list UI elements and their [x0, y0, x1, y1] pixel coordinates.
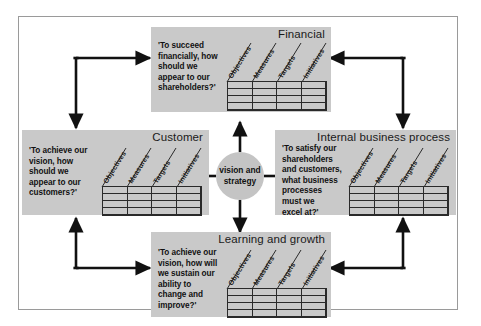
grid-cell: [253, 89, 278, 96]
grid-cell: [253, 289, 278, 296]
scorecard-grid-customer: Objectives Measures Targets Initiatives: [98, 142, 202, 214]
grid-cell: [103, 194, 128, 201]
grid-cell: [253, 103, 278, 110]
vision-and-strategy-hub: vision and strategy: [216, 152, 264, 200]
grid-cells-internal-business-process: [349, 186, 449, 216]
grid-cell: [350, 208, 375, 215]
grid-cell: [103, 187, 128, 194]
grid-cells-financial: [227, 81, 327, 111]
scorecard-grid-internal-business-process: Objectives Measures Targets Initiatives: [345, 142, 449, 214]
grid-cell: [253, 303, 278, 310]
panel-financial-quote: 'To succeed financially, how should we a…: [158, 41, 224, 94]
panel-customer-quote: 'To achieve our vision, how should we ap…: [29, 146, 97, 199]
grid-cell: [375, 201, 400, 208]
grid-cell: [375, 187, 400, 194]
grid-cells-customer: [102, 186, 202, 216]
grid-cell: [228, 289, 253, 296]
grid-cell: [177, 194, 202, 201]
grid-cell: [228, 103, 253, 110]
header-initiatives: Initiatives: [302, 47, 326, 79]
grid-cell: [128, 208, 153, 215]
grid-cell: [277, 103, 302, 110]
grid-cell: [277, 296, 302, 303]
grid-cell: [302, 310, 327, 317]
grid-cells-learning-and-growth: [227, 288, 327, 318]
grid-cell: [350, 187, 375, 194]
grid-cell: [177, 208, 202, 215]
grid-cell: [302, 289, 327, 296]
grid-cell: [302, 96, 327, 103]
scorecard-grid-learning-and-growth: Objectives Measures Targets Initiatives: [223, 244, 327, 316]
grid-cell: [424, 208, 449, 215]
grid-cell: [103, 208, 128, 215]
grid-cell: [152, 187, 177, 194]
grid-cell: [128, 194, 153, 201]
grid-cell: [128, 187, 153, 194]
grid-cell: [277, 82, 302, 89]
grid-headers-financial: Objectives Measures Targets Initiatives: [223, 37, 327, 83]
grid-headers-customer: Objectives Measures Targets Initiatives: [98, 142, 202, 188]
grid-cell: [302, 296, 327, 303]
panel-customer: Customer 'To achieve our vision, how sho…: [22, 130, 209, 215]
grid-cell: [399, 201, 424, 208]
grid-cell: [128, 201, 153, 208]
grid-cell: [399, 208, 424, 215]
header-initiatives: Initiatives: [177, 152, 201, 184]
header-initiatives: Initiatives: [424, 152, 448, 184]
grid-cell: [228, 296, 253, 303]
grid-cell: [302, 82, 327, 89]
panel-internal-business-process: Internal business process 'To satisfy ou…: [275, 130, 456, 215]
header-objectives: Objectives: [227, 45, 253, 80]
grid-cell: [253, 296, 278, 303]
grid-cell: [228, 303, 253, 310]
grid-cell: [399, 194, 424, 201]
grid-cell: [350, 201, 375, 208]
grid-cell: [277, 303, 302, 310]
grid-cell: [253, 82, 278, 89]
panel-learning-and-growth: Learning and growth 'To achieve our visi…: [151, 232, 331, 317]
grid-cell: [152, 201, 177, 208]
header-objectives: Objectives: [227, 252, 253, 287]
grid-cell: [302, 303, 327, 310]
grid-cell: [253, 310, 278, 317]
panel-internal-business-process-quote: 'To satisfy our shareholders and custome…: [282, 144, 348, 218]
header-objectives: Objectives: [102, 150, 128, 185]
header-measures: Measures: [374, 153, 397, 185]
grid-cell: [399, 187, 424, 194]
grid-cell: [350, 194, 375, 201]
grid-cell: [302, 103, 327, 110]
grid-headers-internal-business-process: Objectives Measures Targets Initiatives: [345, 142, 449, 188]
header-measures: Measures: [252, 48, 275, 80]
grid-cell: [277, 310, 302, 317]
grid-cell: [152, 194, 177, 201]
scorecard-grid-financial: Objectives Measures Targets Initiatives: [223, 37, 327, 109]
grid-cell: [424, 194, 449, 201]
grid-cell: [424, 201, 449, 208]
header-initiatives: Initiatives: [302, 254, 326, 286]
header-measures: Measures: [127, 153, 150, 185]
grid-cell: [277, 96, 302, 103]
grid-cell: [103, 201, 128, 208]
grid-cell: [302, 89, 327, 96]
header-targets: Targets: [399, 159, 419, 185]
panel-financial: Financial 'To succeed financially, how s…: [151, 27, 331, 112]
grid-cell: [253, 96, 278, 103]
grid-cell: [228, 96, 253, 103]
grid-cell: [375, 194, 400, 201]
grid-cell: [152, 208, 177, 215]
grid-cell: [228, 310, 253, 317]
panel-learning-and-growth-quote: 'To achieve our vision, how will we sust…: [158, 248, 226, 312]
header-measures: Measures: [252, 255, 275, 287]
grid-cell: [375, 208, 400, 215]
diagram-canvas: Financial 'To succeed financially, how s…: [0, 0, 481, 326]
vision-and-strategy-label: vision and strategy: [219, 165, 260, 187]
grid-cell: [228, 82, 253, 89]
grid-cell: [277, 289, 302, 296]
header-targets: Targets: [152, 159, 172, 185]
grid-cell: [228, 89, 253, 96]
grid-cell: [177, 187, 202, 194]
header-objectives: Objectives: [349, 150, 375, 185]
grid-cell: [177, 201, 202, 208]
grid-cell: [424, 187, 449, 194]
grid-headers-learning-and-growth: Objectives Measures Targets Initiatives: [223, 244, 327, 290]
